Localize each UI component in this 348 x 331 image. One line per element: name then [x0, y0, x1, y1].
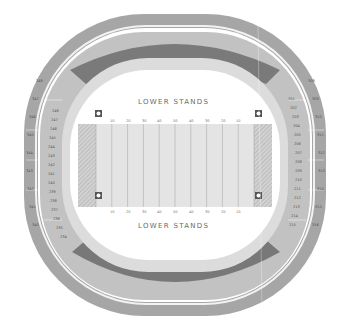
svg-text:204: 204 [293, 124, 301, 128]
svg-text:50: 50 [173, 210, 178, 214]
svg-text:202: 202 [290, 106, 297, 110]
svg-text:240: 240 [48, 181, 56, 185]
stadium-seating-map: 10 20 30 40 50 40 30 20 10 10 20 30 40 5… [0, 0, 348, 331]
svg-text:242: 242 [48, 163, 55, 167]
yard-numbers-bottom: 10 20 30 40 50 40 30 20 10 [110, 210, 241, 214]
svg-text:30: 30 [142, 119, 147, 123]
svg-text:247: 247 [51, 118, 58, 122]
svg-text:20: 20 [126, 210, 131, 214]
svg-text:314: 314 [317, 187, 325, 191]
svg-text:215: 215 [289, 223, 296, 227]
north-stands-label: LOWER STANDS [138, 98, 209, 106]
svg-text:30: 30 [205, 210, 210, 214]
svg-text:312: 312 [318, 151, 325, 155]
svg-text:206: 206 [294, 142, 302, 146]
svg-text:10: 10 [110, 119, 115, 123]
svg-text:214: 214 [291, 214, 299, 218]
svg-text:212: 212 [294, 196, 301, 200]
svg-text:241: 241 [48, 172, 55, 176]
svg-text:203: 203 [292, 115, 299, 119]
svg-text:344: 344 [26, 151, 34, 155]
endzone-west [78, 124, 96, 207]
svg-text:246: 246 [50, 127, 58, 131]
svg-text:346: 346 [29, 115, 37, 119]
svg-text:235: 235 [56, 226, 63, 230]
svg-text:311: 311 [317, 133, 324, 137]
svg-text:10: 10 [236, 210, 241, 214]
svg-text:209: 209 [295, 169, 303, 173]
svg-text:20: 20 [221, 210, 226, 214]
football-field [78, 124, 272, 207]
svg-text:30: 30 [142, 210, 147, 214]
svg-text:315: 315 [315, 205, 322, 209]
svg-text:309: 309 [312, 97, 320, 101]
svg-text:243: 243 [48, 154, 55, 158]
svg-text:40: 40 [157, 210, 162, 214]
svg-text:30: 30 [205, 119, 210, 123]
svg-text:347: 347 [32, 97, 39, 101]
camera-icon [255, 110, 262, 117]
svg-text:313: 313 [318, 169, 325, 173]
svg-text:316: 316 [312, 223, 320, 227]
camera-icon [95, 192, 102, 199]
svg-text:341: 341 [29, 205, 36, 209]
svg-text:236: 236 [53, 217, 61, 221]
svg-text:40: 40 [157, 119, 162, 123]
svg-text:50: 50 [173, 119, 178, 123]
svg-text:342: 342 [27, 187, 34, 191]
svg-text:201: 201 [288, 97, 295, 101]
svg-text:348: 348 [36, 79, 44, 83]
svg-text:20: 20 [221, 119, 226, 123]
svg-text:237: 237 [51, 208, 58, 212]
svg-text:205: 205 [294, 133, 301, 137]
svg-text:10: 10 [110, 210, 115, 214]
svg-text:213: 213 [293, 205, 300, 209]
svg-text:308: 308 [308, 79, 316, 83]
svg-text:248: 248 [52, 109, 60, 113]
svg-text:343: 343 [26, 169, 33, 173]
svg-text:244: 244 [48, 145, 56, 149]
south-stands-label: LOWER STANDS [138, 222, 209, 230]
svg-text:10: 10 [236, 119, 241, 123]
svg-text:211: 211 [294, 187, 301, 191]
svg-text:40: 40 [189, 210, 194, 214]
svg-text:340: 340 [32, 223, 40, 227]
camera-icon [255, 192, 262, 199]
svg-text:310: 310 [315, 115, 323, 119]
svg-text:207: 207 [295, 151, 302, 155]
svg-text:234: 234 [60, 235, 68, 239]
svg-text:210: 210 [295, 178, 303, 182]
svg-text:245: 245 [49, 136, 56, 140]
yard-numbers-top: 10 20 30 40 50 40 30 20 10 [110, 119, 241, 123]
svg-text:345: 345 [27, 133, 34, 137]
svg-text:20: 20 [126, 119, 131, 123]
svg-text:40: 40 [189, 119, 194, 123]
svg-text:208: 208 [295, 160, 303, 164]
svg-text:238: 238 [50, 199, 58, 203]
svg-text:239: 239 [49, 190, 57, 194]
camera-icon [95, 110, 102, 117]
